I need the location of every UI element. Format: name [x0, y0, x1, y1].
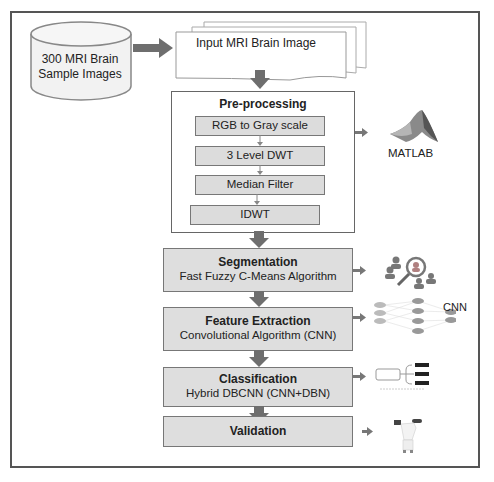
small-arrow-down-icon	[255, 165, 265, 176]
multi-document-icon	[170, 20, 370, 82]
arrow-down-icon	[250, 70, 270, 90]
step-idwt: IDWT	[190, 205, 320, 225]
stage-segmentation: Segmentation Fast Fuzzy C-Means Algorith…	[163, 248, 353, 292]
stage-validation: Validation	[163, 416, 353, 447]
step-rgb-to-gray: RGB to Gray scale	[195, 116, 325, 136]
source-line-2: Sample Images	[30, 67, 130, 82]
arrow-down-icon	[249, 291, 269, 308]
stage-subtitle: Convolutional Algorithm (CNN)	[164, 328, 352, 342]
matlab-logo-icon	[388, 108, 440, 146]
preprocessing-title: Pre-processing	[171, 97, 355, 111]
stage-title: Feature Extraction	[164, 314, 352, 328]
source-line-1: 300 MRI Brain	[30, 52, 130, 67]
small-arrow-right-icon	[353, 313, 367, 323]
input-label: Input MRI Brain Image	[176, 36, 336, 50]
step-median-filter: Median Filter	[195, 175, 325, 195]
magnifier-people-icon	[384, 254, 440, 290]
stage-title: Segmentation	[164, 255, 352, 269]
arrow-down-icon	[249, 231, 269, 249]
arrow-right-icon	[133, 38, 175, 58]
small-arrow-down-icon	[252, 194, 262, 206]
step-3-level-dwt: 3 Level DWT	[195, 146, 325, 166]
small-arrow-right-icon	[353, 372, 367, 382]
small-arrow-right-icon	[362, 427, 374, 436]
cnn-label: CNN	[443, 301, 467, 313]
classifier-tree-icon	[374, 362, 434, 392]
matlab-label: MATLAB	[388, 147, 433, 159]
stage-title: Classification	[164, 372, 352, 386]
source-label: 300 MRI Brain Sample Images	[30, 52, 130, 82]
small-arrow-down-icon	[255, 135, 265, 147]
stage-subtitle: Hybrid DBCNN (CNN+DBN)	[164, 386, 352, 400]
stage-subtitle: Fast Fuzzy C-Means Algorithm	[164, 269, 352, 283]
small-arrow-right-icon	[353, 266, 367, 276]
arrow-down-icon	[249, 350, 269, 368]
small-arrow-right-icon	[355, 128, 369, 138]
stage-title: Validation	[164, 417, 352, 445]
doctor-icon	[392, 418, 424, 454]
stage-feature-extraction: Feature Extraction Convolutional Algorit…	[163, 307, 353, 351]
stage-classification: Classification Hybrid DBCNN (CNN+DBN)	[163, 367, 353, 407]
